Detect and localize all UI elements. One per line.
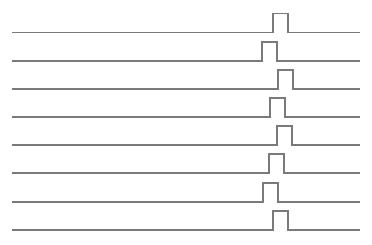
pulse-timing-diagram <box>0 0 372 245</box>
pulse-trace-5 <box>12 126 360 145</box>
pulse-trace-2 <box>12 42 360 61</box>
pulse-traces <box>0 0 372 245</box>
pulse-trace-7 <box>12 183 360 202</box>
pulse-trace-3 <box>12 70 360 89</box>
pulse-trace-4 <box>12 98 360 117</box>
pulse-trace-8 <box>12 211 360 230</box>
pulse-trace-6 <box>12 154 360 173</box>
pulse-trace-1 <box>12 14 360 33</box>
